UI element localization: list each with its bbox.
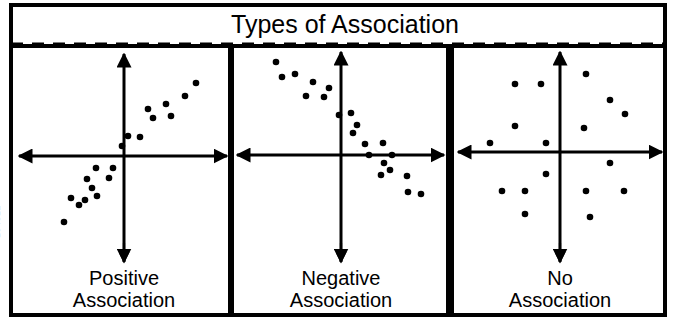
data-point (389, 152, 396, 159)
data-point (581, 125, 588, 132)
panel-label-none-line2: Association (509, 289, 611, 311)
data-point (279, 74, 286, 81)
data-point (125, 133, 132, 140)
data-point (193, 80, 200, 87)
data-point (137, 134, 144, 141)
data-point (348, 110, 355, 117)
data-point (378, 172, 385, 179)
data-point (84, 176, 91, 183)
data-point (303, 93, 310, 100)
data-point (622, 111, 629, 118)
panel-label-none-line1: No (547, 267, 573, 289)
data-point (163, 101, 170, 108)
data-point (119, 143, 126, 150)
data-point (106, 175, 113, 182)
data-point (405, 189, 412, 196)
data-point (522, 188, 529, 195)
data-point (362, 141, 369, 148)
data-point (82, 197, 89, 204)
data-point (512, 123, 519, 130)
data-point (168, 113, 175, 120)
data-point (583, 188, 590, 195)
data-point (110, 165, 117, 172)
panel-label-positive-line2: Association (73, 289, 175, 311)
data-point (310, 79, 317, 86)
data-point (380, 140, 387, 147)
data-point (538, 81, 545, 88)
data-point (145, 106, 152, 113)
data-point (418, 191, 425, 198)
data-point (354, 122, 361, 129)
data-point (336, 112, 343, 119)
data-point (583, 71, 590, 78)
data-point (607, 160, 614, 167)
data-point (381, 160, 388, 167)
data-point (543, 171, 550, 178)
data-point (93, 165, 100, 172)
panel-label-positive-line1: Positive (89, 267, 159, 289)
panel-label-negative-line2: Association (290, 289, 392, 311)
data-point (321, 94, 328, 101)
data-point (607, 97, 614, 104)
data-point (326, 85, 333, 92)
data-point (182, 93, 189, 100)
data-point (621, 188, 628, 195)
data-point (292, 71, 299, 78)
data-point (273, 59, 280, 66)
data-point (404, 173, 411, 180)
data-point (543, 140, 550, 147)
data-point (522, 211, 529, 218)
edge-watermark: 104312 (0, 205, 2, 238)
data-point (76, 202, 83, 209)
data-point (366, 152, 373, 159)
data-point (61, 219, 68, 226)
types-of-association-figure: Types of Association Positive Associatio… (0, 0, 675, 325)
data-point (487, 140, 494, 147)
data-point (512, 81, 519, 88)
data-point (150, 115, 157, 122)
panel-label-negative-line1: Negative (302, 267, 381, 289)
data-point (89, 185, 96, 192)
page-title: Types of Association (231, 10, 459, 38)
data-point (350, 130, 357, 137)
data-point (68, 195, 75, 202)
figure-canvas: Types of Association Positive Associatio… (0, 0, 675, 325)
data-point (387, 167, 394, 174)
data-point (587, 214, 594, 221)
data-point (499, 188, 506, 195)
data-point (94, 193, 101, 200)
